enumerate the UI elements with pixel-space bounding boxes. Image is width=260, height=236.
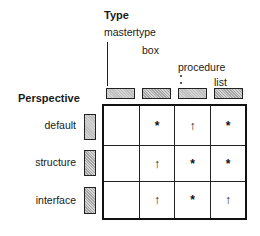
row-header-box-interface xyxy=(84,187,96,214)
leader-line xyxy=(107,42,108,86)
cell-default-box: * xyxy=(140,106,174,145)
cell-structure-mastertype xyxy=(104,146,139,181)
column-label-list: list xyxy=(214,76,227,88)
column-header-box-mastertype xyxy=(106,88,135,99)
row-label-default: default xyxy=(6,119,76,131)
column-header-box-list xyxy=(214,88,243,99)
leader-dot xyxy=(180,75,182,77)
column-label-procedure: procedure xyxy=(178,61,225,73)
cell-structure-box: ↑ xyxy=(140,146,174,181)
column-axis-title: Type xyxy=(104,9,129,21)
column-header-box-box xyxy=(142,88,171,99)
cell-default-mastertype xyxy=(104,106,139,145)
cell-interface-box: ↑ xyxy=(140,182,174,218)
cell-interface-list: ↑ xyxy=(211,182,245,218)
row-header-box-structure xyxy=(84,150,96,176)
cell-default-list: * xyxy=(211,106,245,145)
column-label-mastertype: mastertype xyxy=(104,26,156,38)
row-label-interface: interface xyxy=(6,194,76,206)
perspective-type-matrix: * ↑ * ↑ * * ↑ * ↑ xyxy=(102,104,247,220)
cell-default-procedure: ↑ xyxy=(175,106,210,145)
row-header-box-default xyxy=(84,114,96,140)
cell-structure-list: * xyxy=(211,146,245,181)
leader-dot xyxy=(180,82,182,84)
row-label-structure: structure xyxy=(6,156,76,168)
column-label-box: box xyxy=(142,44,159,56)
cell-interface-procedure: * xyxy=(175,182,210,218)
column-header-box-procedure xyxy=(178,88,207,99)
cell-interface-mastertype xyxy=(104,182,139,218)
row-axis-title: Perspective xyxy=(18,92,80,104)
cell-structure-procedure: * xyxy=(175,146,210,181)
